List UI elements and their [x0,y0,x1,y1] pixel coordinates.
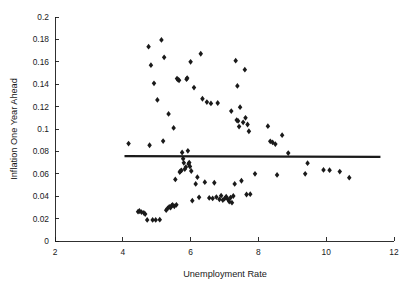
chart-figure: 00.020.040.060.080.10.120.140.160.180.2 … [0,0,415,285]
data-point-marker [238,104,243,110]
data-point-marker [253,171,258,177]
y-axis-title: Inflation One Year Ahead [9,78,19,180]
data-point-marker [199,51,204,57]
data-point-marker [229,108,234,114]
data-point-marker [243,115,248,121]
data-point-marker [157,217,162,223]
data-point-marker [209,101,214,107]
data-point-marker [243,67,248,73]
data-point-marker [200,96,205,102]
data-point-marker [248,191,253,197]
x-tick-label: 8 [256,247,261,257]
data-point-marker [145,217,150,223]
data-point-marker [232,181,237,187]
data-point-marker [171,125,176,131]
data-point-marker [205,99,210,105]
y-tick-label: 0.04 [33,191,50,201]
data-point-marker [239,178,244,184]
data-point-marker [152,80,157,86]
y-tick-label: 0.14 [33,79,50,89]
scatter-plot-canvas: 00.020.040.060.080.10.120.140.160.180.2 … [0,0,415,285]
data-point-marker [180,150,185,156]
data-point-marker [237,124,242,130]
x-tick-label: 4 [120,247,125,257]
data-point-marker [275,172,280,178]
y-tick-label: 0.1 [37,124,49,134]
data-point-marker [303,171,308,177]
data-point-marker [244,192,249,198]
y-tick-label: 0.2 [37,12,49,22]
data-point-marker [162,54,167,60]
data-point-marker [347,175,352,181]
x-tick-label: 12 [389,247,399,257]
data-point-marker [159,37,164,43]
scatter-data-points [126,37,351,223]
data-point-marker [192,85,197,91]
data-point-marker [235,83,240,89]
data-point-marker [155,97,160,103]
data-point-marker [305,160,310,166]
y-tick-label: 0.08 [33,146,50,156]
y-tick-label: 0.02 [33,214,50,224]
data-point-marker [210,196,215,202]
data-point-marker [327,167,332,173]
data-point-marker [186,148,191,154]
y-tick-label: 0.12 [33,102,50,112]
data-point-marker [173,177,178,183]
data-point-marker [166,111,171,117]
data-point-marker [147,142,152,148]
y-tick-label: 0 [44,236,49,246]
data-point-marker [149,62,154,68]
data-point-marker [197,194,202,200]
y-tick-label: 0.06 [33,169,50,179]
regression-reference-line [124,156,380,157]
x-tick-label: 10 [322,247,332,257]
data-point-marker [247,128,252,134]
data-point-marker [161,138,166,144]
data-point-marker [215,100,220,106]
y-tick-label: 0.18 [33,34,50,44]
plot-axes [55,17,394,241]
data-point-marker [153,217,158,223]
data-point-marker [280,132,285,138]
data-point-marker [195,174,200,180]
data-point-marker [188,59,193,65]
data-point-marker [241,119,246,125]
data-point-marker [233,58,238,64]
data-point-marker [126,141,131,147]
data-point-marker [212,180,217,186]
y-tick-label: 0.16 [33,57,50,67]
data-point-marker [190,198,195,204]
x-tick-label: 6 [188,247,193,257]
data-point-marker [337,169,342,175]
data-point-marker [266,123,271,129]
x-axis-title: Unemployment Rate [183,269,267,279]
data-point-marker [321,167,326,173]
x-tick-label: 2 [53,247,58,257]
x-axis-ticks: 24681012 [53,237,399,257]
data-point-marker [286,150,291,156]
data-point-marker [203,179,208,185]
data-point-marker [146,44,151,50]
data-point-marker [245,122,250,128]
data-point-marker [193,181,198,187]
